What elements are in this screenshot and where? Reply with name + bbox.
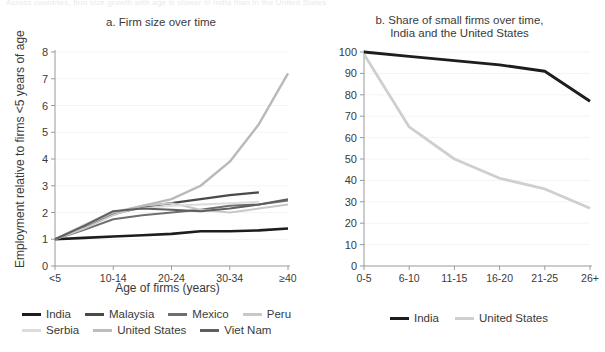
svg-text:10-14: 10-14 [100, 272, 127, 284]
svg-text:16-20: 16-20 [486, 272, 513, 284]
svg-text:2: 2 [42, 207, 48, 219]
legend-item-peru[interactable]: Peru [243, 306, 291, 322]
svg-text:3: 3 [42, 180, 48, 192]
legend-item-malaysia[interactable]: Malaysia [85, 306, 154, 322]
panel-a-legend-row-1: IndiaMalaysiaMexicoPeru [22, 306, 300, 322]
panel-a-legend: IndiaMalaysiaMexicoPeru SerbiaUnited Sta… [22, 306, 300, 338]
legend-item-india[interactable]: India [390, 310, 439, 326]
svg-text:90: 90 [345, 67, 357, 79]
legend-swatch-icon [22, 313, 41, 316]
legend-swatch-icon [243, 313, 262, 316]
legend-label: Malaysia [109, 306, 154, 322]
svg-text:70: 70 [345, 110, 357, 122]
panel-a-plot: 012345678<510-1420-2430-34≥40 [0, 0, 302, 352]
panel-b-plot: 01020304050607080901000-56-1011-1516-202… [302, 0, 605, 352]
legend-swatch-icon [93, 329, 112, 332]
svg-text:30-34: 30-34 [216, 272, 243, 284]
svg-text:20-24: 20-24 [158, 272, 185, 284]
legend-label: India [414, 310, 439, 326]
legend-swatch-icon [85, 313, 104, 316]
legend-label: India [46, 306, 71, 322]
svg-text:6-10: 6-10 [399, 272, 420, 284]
panel-a-legend-row-2: SerbiaUnited StatesViet Nam [22, 322, 300, 338]
legend-label: United States [479, 310, 548, 326]
series-line-india [364, 52, 590, 101]
svg-text:60: 60 [345, 132, 357, 144]
legend-item-mexico[interactable]: Mexico [168, 306, 228, 322]
svg-text:6: 6 [42, 100, 48, 112]
legend-swatch-icon [455, 317, 474, 320]
panel-b-legend-row-1: IndiaUnited States [390, 310, 590, 326]
panel-b-share-of-small-firms: b. Share of small firms over time, India… [302, 0, 605, 352]
legend-item-serbia[interactable]: Serbia [22, 322, 79, 338]
legend-item-india[interactable]: India [22, 306, 71, 322]
legend-swatch-icon [22, 329, 41, 332]
svg-text:≥40: ≥40 [279, 272, 297, 284]
series-line-united-states [55, 73, 288, 239]
svg-text:8: 8 [42, 46, 48, 58]
panel-b-legend: IndiaUnited States [390, 310, 590, 326]
legend-item-viet-nam[interactable]: Viet Nam [200, 322, 271, 338]
svg-text:30: 30 [345, 196, 357, 208]
svg-text:0-5: 0-5 [356, 272, 371, 284]
legend-swatch-icon [390, 317, 409, 320]
svg-text:11-15: 11-15 [441, 272, 467, 284]
legend-label: Viet Nam [224, 322, 271, 338]
legend-swatch-icon [168, 313, 187, 316]
legend-item-united-states[interactable]: United States [93, 322, 186, 338]
panel-a-firm-size-over-time: a. Firm size over time Employment relati… [0, 0, 302, 352]
svg-text:40: 40 [345, 174, 357, 186]
legend-label: Serbia [46, 322, 79, 338]
svg-text:26+: 26+ [581, 272, 599, 284]
svg-text:20: 20 [345, 217, 357, 229]
svg-text:10: 10 [345, 239, 357, 251]
svg-text:100: 100 [339, 46, 357, 58]
svg-text:0: 0 [351, 260, 357, 272]
legend-label: United States [117, 322, 186, 338]
svg-text:5: 5 [42, 126, 48, 138]
svg-text:21-25: 21-25 [531, 272, 558, 284]
svg-text:50: 50 [345, 153, 357, 165]
legend-swatch-icon [200, 329, 219, 332]
svg-text:0: 0 [42, 260, 48, 272]
legend-item-united-states[interactable]: United States [455, 310, 548, 326]
svg-text:4: 4 [42, 153, 48, 165]
svg-text:80: 80 [345, 89, 357, 101]
svg-text:1: 1 [42, 233, 48, 245]
legend-label: Mexico [192, 306, 228, 322]
legend-label: Peru [267, 306, 291, 322]
svg-text:7: 7 [42, 73, 48, 85]
svg-text:<5: <5 [49, 272, 61, 284]
series-line-india [55, 229, 288, 240]
